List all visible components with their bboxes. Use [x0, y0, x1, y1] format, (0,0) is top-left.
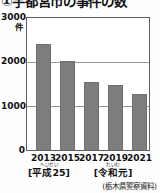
y-tick-label-3000: 3000 [1, 13, 25, 22]
era-annotation-heisei: へいせい [平成25] [21, 162, 77, 178]
plot-area [26, 17, 150, 151]
source-citation: (栃木県警察資料) [102, 182, 157, 191]
y-tick-label-1000: 1000 [1, 102, 25, 111]
bar-2017 [84, 82, 99, 150]
y-tick-label-0: 0 [1, 146, 25, 155]
chart-figure: ①宇都宮市の事件の数 3000 件 2000 1000 0 2013 2015 … [0, 0, 160, 193]
bar-2019 [108, 85, 123, 150]
bar-2021 [132, 94, 147, 150]
y-axis-unit-label: 件 [15, 23, 24, 32]
era-annotation-reiwa: れいわ [令和元] [85, 162, 141, 178]
bar-2013 [36, 44, 51, 150]
bar-2015 [60, 61, 75, 150]
y-axis: 3000 件 2000 1000 0 [0, 0, 25, 168]
era-label-heisei: [平成25] [21, 167, 77, 178]
y-tick-label-2000: 2000 [1, 57, 25, 66]
era-label-reiwa: [令和元] [85, 167, 141, 178]
